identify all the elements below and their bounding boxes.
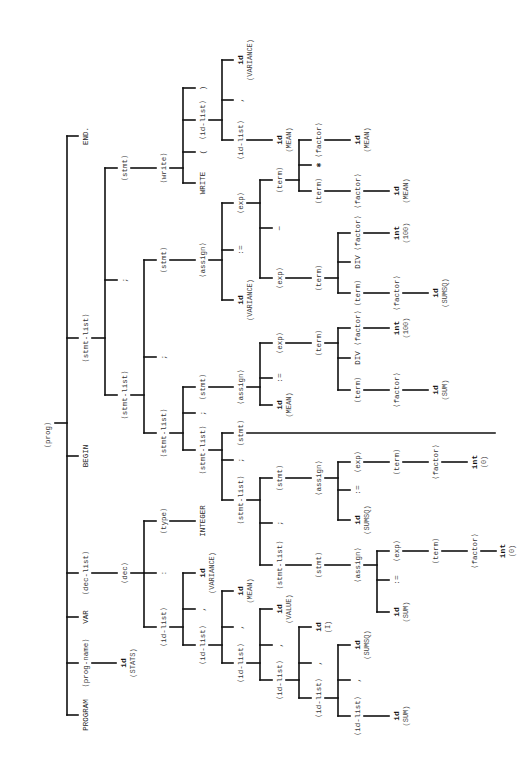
node-label-stmt_write: ⟨stmt⟩ bbox=[121, 154, 129, 181]
node-label-a3_dt_val: (SUMSQ) bbox=[441, 278, 449, 307]
node-label-a3_df_int: int bbox=[392, 226, 401, 241]
node-label-semi3: ; bbox=[198, 411, 207, 416]
node-label-d_sumsq_id: id bbox=[353, 640, 362, 650]
node-label-integer: INTEGER bbox=[199, 505, 207, 537]
node-label-a3_asg: := bbox=[236, 245, 245, 255]
node-label-su_asg: := bbox=[392, 575, 401, 585]
node-label-stmt_sumsq: ⟨stmt⟩ bbox=[276, 464, 284, 491]
node-label-a3_term_r: ⟨term⟩ bbox=[315, 264, 323, 291]
node-label-su_factor: ⟨factor⟩ bbox=[471, 533, 479, 569]
node-label-idlist_w2: ⟨id-list⟩ bbox=[237, 120, 245, 161]
node-label-d_var_val: (VARIANCE) bbox=[208, 552, 216, 594]
node-label-d_var_id: id bbox=[198, 568, 207, 578]
node-label-w_var_val: (VARIANCE) bbox=[246, 39, 254, 81]
node-label-a3_mul_f_id: id bbox=[353, 135, 362, 145]
node-label-a3_exp_r: ⟨exp⟩ bbox=[276, 267, 284, 290]
node-label-as_exp: ⟨exp⟩ bbox=[354, 451, 362, 474]
node-label-d_comma1: , bbox=[198, 607, 207, 612]
node-label-a3_mul_f_val: (MEAN) bbox=[363, 127, 371, 152]
node-label-end: END. bbox=[82, 127, 90, 145]
node-label-stmt_assign3: ⟨stmt⟩ bbox=[160, 246, 168, 273]
node-label-idlist_w: ⟨id-list⟩ bbox=[199, 100, 207, 141]
node-label-w_var_id: id bbox=[236, 55, 245, 65]
node-label-su_int_val: (0) bbox=[508, 545, 516, 558]
node-label-d_comma4: , bbox=[314, 661, 323, 666]
node-label-a3_val: (VARIANCE) bbox=[246, 279, 254, 321]
node-label-as_factor: ⟨factor⟩ bbox=[432, 444, 440, 480]
node-label-stmtlist3: ⟨stmt-list⟩ bbox=[160, 408, 168, 458]
node-label-d_comma2: , bbox=[236, 625, 245, 630]
node-label-d_mean_val: (MEAN) bbox=[246, 578, 254, 603]
node-label-assign_sumsq: ⟨assign⟩ bbox=[315, 460, 323, 496]
node-label-stmt_long: ⟨stmt⟩ bbox=[237, 419, 245, 446]
node-label-d_i_id: id bbox=[314, 622, 323, 632]
node-label-su_exp: ⟨exp⟩ bbox=[393, 540, 401, 563]
node-label-idlist5: ⟨id-list⟩ bbox=[315, 678, 323, 719]
node-label-stmtlist2: ⟨stmt-list⟩ bbox=[121, 370, 129, 420]
node-label-a3_minus: − bbox=[275, 225, 284, 230]
node-label-idlist3: ⟨id-list⟩ bbox=[237, 643, 245, 684]
node-label-a3_mul_factor: ⟨factor⟩ bbox=[315, 122, 323, 158]
node-label-a2_id: id bbox=[275, 400, 284, 410]
node-label-assign3: ⟨assign⟩ bbox=[199, 242, 207, 278]
node-label-type: ⟨type⟩ bbox=[160, 507, 168, 534]
node-label-d_mean_id: id bbox=[236, 586, 245, 596]
node-label-as_asg: := bbox=[353, 485, 362, 495]
node-label-a3_term_factor: ⟨factor⟩ bbox=[354, 173, 362, 209]
node-label-a3_tf_val: (MEAN) bbox=[402, 178, 410, 203]
node-label-su_int: int bbox=[498, 544, 507, 559]
node-label-semi1: ; bbox=[120, 278, 129, 283]
node-label-semi2: ; bbox=[159, 355, 168, 360]
node-label-stmt_assign2: ⟨stmt⟩ bbox=[199, 373, 207, 400]
node-label-prog: ⟨prog⟩ bbox=[44, 421, 52, 448]
node-label-a2_factor_id: ⟨factor⟩ bbox=[393, 372, 401, 408]
node-label-declist: ⟨dec-list⟩ bbox=[82, 550, 90, 595]
node-label-a2_factor_int: ⟨factor⟩ bbox=[354, 310, 362, 346]
node-label-progname_val: (STATS) bbox=[129, 648, 137, 677]
node-label-w_mean_id: id bbox=[275, 135, 284, 145]
parse-tree-diagram: ⟨prog⟩END.⟨stmt-list⟩BEGIN⟨dec-list⟩VAR⟨… bbox=[0, 0, 518, 769]
node-label-idlist1: ⟨id-list⟩ bbox=[160, 607, 168, 648]
node-label-as_int: int bbox=[470, 455, 479, 470]
node-label-a3_dt_id: id bbox=[431, 288, 440, 298]
node-label-assign2: ⟨assign⟩ bbox=[237, 369, 245, 405]
node-label-as_id: id bbox=[353, 515, 362, 525]
node-label-d_comma5: , bbox=[353, 678, 362, 683]
node-label-a3_mul: ✱ bbox=[314, 162, 323, 167]
node-label-lparen: ( bbox=[198, 150, 207, 155]
node-label-as_val: (SUMSQ) bbox=[363, 505, 371, 534]
node-label-as_int_val: (0) bbox=[480, 456, 488, 469]
node-label-a3_div_factor: ⟨factor⟩ bbox=[354, 215, 362, 251]
node-label-a3_df_val: (100) bbox=[402, 222, 410, 243]
node-label-a2_term2: ⟨term⟩ bbox=[354, 376, 362, 403]
node-label-a2_fid_val: (SUM) bbox=[441, 379, 449, 400]
node-label-idlist6: ⟨id-list⟩ bbox=[354, 696, 362, 737]
node-label-a3_div: DIV bbox=[354, 255, 362, 269]
node-label-stmtlist6: ⟨stmt-list⟩ bbox=[276, 540, 284, 590]
node-label-a2_int: int bbox=[392, 321, 401, 336]
node-label-stmtlist1: ⟨stmt-list⟩ bbox=[82, 313, 90, 363]
node-label-a3_dt_factor: ⟨factor⟩ bbox=[393, 275, 401, 311]
node-label-progname: ⟨prog-name⟩ bbox=[82, 638, 90, 688]
node-label-d_comma3: , bbox=[275, 643, 284, 648]
node-label-rparen: ) bbox=[198, 86, 207, 91]
node-label-a2_term: ⟨term⟩ bbox=[315, 329, 323, 356]
node-label-write_kw: WRITE bbox=[199, 171, 207, 194]
node-label-stmt_sum: ⟨stmt⟩ bbox=[315, 551, 323, 578]
node-label-var: VAR bbox=[82, 610, 90, 624]
node-label-d_i_val: (I) bbox=[324, 621, 332, 634]
node-label-a2_val: (MEAN) bbox=[285, 392, 293, 417]
node-label-write: ⟨write⟩ bbox=[160, 152, 168, 184]
node-label-a3_term_l: ⟨term⟩ bbox=[276, 166, 284, 193]
node-label-d_sumsq_val: (SUMSQ) bbox=[363, 630, 371, 659]
node-label-dec: ⟨dec⟩ bbox=[121, 562, 129, 585]
node-label-su_val: (SUM) bbox=[402, 601, 410, 622]
node-label-begin: BEGIN bbox=[82, 445, 90, 468]
node-label-d_value_val: (VALUE) bbox=[285, 594, 293, 623]
node-label-a3_id: id bbox=[236, 295, 245, 305]
node-label-idlist2: ⟨id-list⟩ bbox=[199, 625, 207, 666]
node-label-a2_fid: id bbox=[431, 385, 440, 395]
node-label-su_term: ⟨term⟩ bbox=[432, 537, 440, 564]
node-label-semi4: ; bbox=[236, 458, 245, 463]
node-label-a3_term_mul_t: ⟨term⟩ bbox=[315, 177, 323, 204]
